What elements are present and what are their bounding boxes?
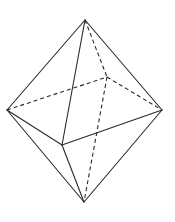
- edge-top-front: [62, 20, 85, 145]
- edge-front-bottom: [62, 145, 84, 202]
- edge-left-front: [7, 110, 62, 145]
- hidden-edge-back-right: [107, 77, 162, 110]
- edge-left-bottom: [7, 110, 84, 202]
- octahedron-diagram: [0, 0, 175, 222]
- hidden-edge-top-back: [85, 20, 107, 77]
- hidden-edge-back-bottom: [84, 77, 107, 202]
- edge-top-right: [85, 20, 162, 110]
- edge-top-left: [7, 20, 85, 110]
